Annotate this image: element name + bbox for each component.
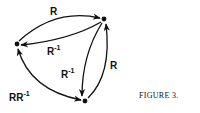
- edge-topright-to-bottom: [82, 23, 102, 96]
- edge-bottom-to-topright: [88, 24, 107, 98]
- edge-topright-to-left: [21, 22, 101, 45]
- node-top-right: [102, 17, 107, 22]
- node-left: [15, 42, 20, 47]
- label-inner-right: R-1: [61, 68, 74, 80]
- label-top-arc: R: [50, 7, 57, 17]
- label-bottom-left: RR-1: [9, 91, 30, 103]
- figure-caption: FIGURE 3.: [139, 91, 179, 100]
- label-outer-right: R: [110, 61, 117, 71]
- node-bottom: [83, 99, 88, 104]
- label-mid-arc: R-1: [47, 45, 60, 57]
